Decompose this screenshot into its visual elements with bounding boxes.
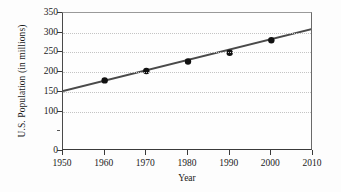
x-tick-label: 1950 — [42, 157, 82, 169]
y-tick-label: 250 — [30, 46, 58, 56]
x-tick-mark — [270, 150, 271, 155]
y-tick-label: 350 — [30, 7, 58, 17]
data-point — [143, 68, 149, 74]
data-point — [185, 58, 191, 64]
population-chart: U.S. Population (in millions) 0100150200… — [0, 0, 341, 192]
y-tick-label: 150 — [30, 86, 58, 96]
x-tick-label: 1990 — [209, 157, 249, 169]
data-point — [268, 37, 274, 43]
gridline — [63, 72, 311, 73]
x-tick-label: 1970 — [125, 157, 165, 169]
y-tick-label: 300 — [30, 27, 58, 37]
gridline — [63, 112, 311, 113]
y-tick-label: 100 — [30, 106, 58, 116]
x-tick-mark — [229, 150, 230, 155]
y-tick-label: 0 — [30, 145, 58, 155]
x-tick-mark — [312, 150, 313, 155]
data-point — [101, 77, 107, 83]
x-tick-mark — [187, 150, 188, 155]
x-tick-label: 2000 — [250, 157, 290, 169]
gridline — [63, 33, 311, 34]
x-tick-mark — [104, 150, 105, 155]
gridline — [63, 92, 311, 93]
plot-area — [62, 12, 312, 150]
x-tick-label: 2010 — [292, 157, 332, 169]
x-axis-tick-labels: 1950196019701980199020002010 — [62, 157, 312, 171]
x-tick-label: 1980 — [167, 157, 207, 169]
x-tick-mark — [145, 150, 146, 155]
x-tick-label: 1960 — [84, 157, 124, 169]
x-axis-title: Year — [62, 172, 312, 184]
y-tick-mark — [57, 130, 60, 131]
x-axis-tick-marks — [62, 150, 312, 156]
x-tick-mark — [62, 150, 63, 155]
y-tick-label: 200 — [30, 66, 58, 76]
gridline — [63, 52, 311, 53]
